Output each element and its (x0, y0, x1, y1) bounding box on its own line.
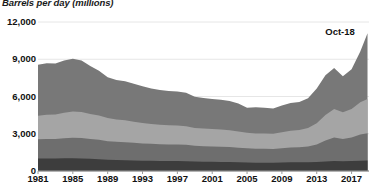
chart-annotation: Oct-18 (325, 26, 355, 37)
y-tick-label: 3,000 (2, 129, 36, 139)
y-axis-ticks: 03,0006,0009,00012,000 (0, 0, 36, 188)
x-tick-label: 1997 (167, 173, 188, 184)
x-tick-label: 2001 (202, 173, 223, 184)
x-tick-label: 2017 (341, 173, 362, 184)
x-tick-label: 2009 (271, 173, 292, 184)
x-tick-label: 2013 (306, 173, 327, 184)
y-tick-label: 6,000 (2, 92, 36, 102)
chart-plot-area (0, 0, 369, 188)
stacked-area-chart: Barrels per day (millions) 03,0006,0009,… (0, 0, 369, 188)
x-tick-label: 2005 (236, 173, 257, 184)
y-tick-label: 9,000 (2, 54, 36, 64)
y-tick-label: 12,000 (2, 17, 36, 27)
x-tick-label: 1993 (132, 173, 153, 184)
x-tick-label: 1989 (97, 173, 118, 184)
x-tick-label: 1985 (62, 173, 83, 184)
x-tick-label: 1981 (27, 173, 48, 184)
